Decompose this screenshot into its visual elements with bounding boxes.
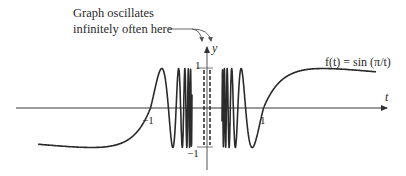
y-axis-label: y bbox=[211, 41, 218, 55]
annotation-line-2: infinitely often here bbox=[73, 22, 173, 36]
x-tick-label-1: 1 bbox=[260, 114, 266, 126]
y-tick-label-1: 1 bbox=[195, 59, 201, 71]
chart-svg: −1 1 1 −1 t y f(t) = sin (π/t) Graph osc… bbox=[0, 0, 406, 176]
chart-figure: −1 1 1 −1 t y f(t) = sin (π/t) Graph osc… bbox=[0, 0, 406, 176]
x-axis-label: t bbox=[385, 90, 389, 104]
function-label: f(t) = sin (π/t) bbox=[325, 55, 391, 69]
annotation-line-1: Graph oscillates bbox=[73, 6, 154, 20]
x-tick-label-minus1: −1 bbox=[142, 114, 154, 126]
annotation-arrow-1 bbox=[168, 29, 202, 41]
y-tick-label-minus1: −1 bbox=[187, 147, 199, 159]
